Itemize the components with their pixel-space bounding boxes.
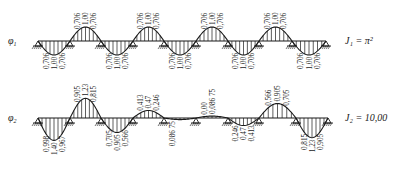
mode-shape-1: φ1 J₁ = π² 0,7061,000,7060,7061,000,7060… [8,12,374,70]
ordinate-value-label: 0,815 [301,134,309,151]
ordinate-value-label: 1,23 [309,139,317,152]
mode-2-symbol: φ2 [8,112,17,124]
ordinate-value-label: 1,40 [51,142,59,155]
pin-support-icon [158,118,169,126]
ordinate-value-label: 0,086 75 [169,121,177,147]
mode-1-symbol: φ1 [8,35,17,47]
ordinate-value-label: 0,706 [122,52,130,69]
ordinate-value-label: 0,706 [43,52,51,69]
ordinate-value-label: 0,706 [153,13,161,30]
ordinate-value-label: 0,706 [264,13,272,30]
ordinate-value-label: 0,246 [153,94,161,111]
ordinate-value-label: 0,706 [90,13,98,30]
ordinate-value-label: 0,706 [185,52,193,69]
mode-2-eigenvalue-label: J₂ = 10,00 [345,112,387,123]
ordinate-value-label: 0,413 [248,125,256,142]
ordinate-value-label: 0,815 [90,86,98,103]
ordinate-value-label: 0,706 [106,52,114,69]
mode-shape-diagram: φ1 J₁ = π² 0,7061,000,7060,7061,000,7060… [0,0,402,170]
ordinate-value-label: 0,566 [122,130,130,147]
ordinate-value-label: 1,00 [209,12,217,25]
ordinate-value-label: 0,00 [201,102,209,115]
ordinate-value-label: 0,706 [248,52,256,69]
ordinate-value-label: 0,566 [265,89,273,106]
ordinate-value-label: 1,00 [306,57,314,70]
mode-1-plot: 0,7061,000,7060,7061,000,7060,7061,000,7… [32,12,331,70]
pin-support-icon [222,118,233,126]
ordinate-value-label: 0,705 [283,89,291,106]
ordinate-value-label: 0,086 75 [209,89,217,115]
ordinate-value-label: 0,998 [43,135,51,152]
ordinate-value-label: 0,706 [280,13,288,30]
ordinate-value-label: 1,00 [272,12,280,25]
ordinate-value-label: 0,706 [201,13,209,30]
pin-support-icon [253,118,264,126]
ordinate-value-label: 0,706 [314,52,322,69]
ordinate-value-label: 0,706 [217,13,225,30]
ordinate-value-label: 0,905 [114,134,122,151]
mode-shape-2: φ2 J₂ = 10,00 0,9981,400,9670,9051,230,8… [8,83,387,155]
ordinate-value-label: 0,705 [106,130,114,147]
ordinate-value-label: 1,00 [51,57,59,70]
ordinate-value-label: 0,706 [59,52,67,69]
mode-2-plot: 0,9981,400,9670,9051,230,8150,7050,9050,… [32,83,333,155]
mode-1-eigenvalue-label: J₁ = π² [345,35,374,46]
ordinate-value-label: 0,706 [169,52,177,69]
ordinate-value-label: 1,00 [114,57,122,70]
ordinate-value-label: 0,905 [274,85,282,102]
ordinate-value-label: 0,706 [297,52,305,69]
ordinate-value-label: 0,905 [317,134,325,151]
ordinate-value-label: 0,967 [59,135,67,152]
ordinate-value-label: 1,00 [177,57,185,70]
